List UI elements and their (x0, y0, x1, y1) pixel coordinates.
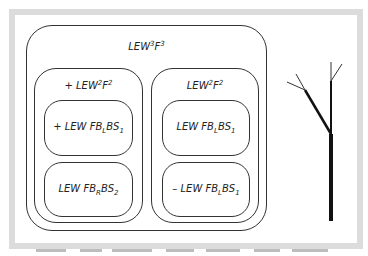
tree-icon (0, 0, 368, 256)
clipped-caption (0, 249, 368, 256)
